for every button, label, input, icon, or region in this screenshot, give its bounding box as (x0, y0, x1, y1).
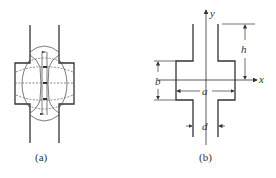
x-axis-label: x (258, 73, 264, 85)
panel-b: y x h b a d (b) (154, 7, 264, 164)
outline-left (176, 24, 193, 137)
waveguide-outline (15, 25, 30, 143)
outline-right (218, 24, 235, 137)
d-label: d (202, 120, 208, 132)
b-label: b (155, 75, 161, 87)
caption-b: (b) (199, 151, 212, 164)
a-label: a (202, 85, 208, 97)
figure: (a) y x h b a d (b) (0, 0, 276, 178)
y-axis-label: y (209, 7, 215, 19)
h-label: h (241, 43, 247, 55)
caption-a: (a) (35, 151, 48, 164)
waveguide-outline-right (59, 25, 74, 143)
panel-a: (a) (15, 25, 74, 164)
